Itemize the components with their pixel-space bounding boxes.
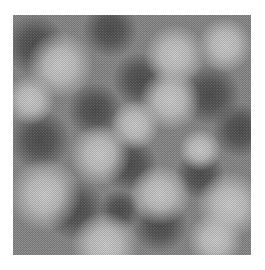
noise-texture bbox=[13, 15, 251, 255]
dither-overlay-light bbox=[13, 15, 251, 255]
